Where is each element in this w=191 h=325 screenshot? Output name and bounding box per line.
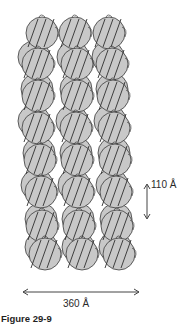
nucleosome bbox=[26, 15, 59, 49]
chromatin-fiber-diagram bbox=[0, 0, 191, 325]
nucleosome bbox=[59, 15, 92, 49]
nucleosome bbox=[93, 15, 126, 49]
vertical-dimension-label: 110 Å bbox=[151, 179, 176, 190]
horizontal-dimension-label: 360 Å bbox=[63, 298, 89, 309]
figure-caption: Figure 29-9 bbox=[1, 313, 52, 324]
horizontal-dimension-arrow bbox=[23, 289, 139, 295]
nucleosome-disks bbox=[18, 15, 136, 270]
vertical-dimension-arrow bbox=[144, 184, 150, 219]
